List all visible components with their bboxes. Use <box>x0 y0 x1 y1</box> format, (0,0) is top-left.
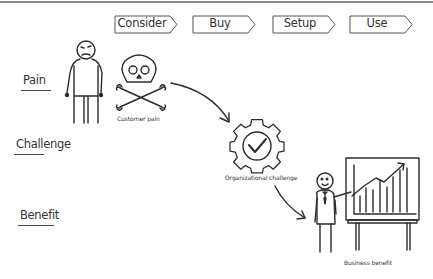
journey-artwork <box>0 0 433 279</box>
easel-chart-icon <box>346 158 419 250</box>
caption-customer-pain: Customer pain <box>117 115 160 122</box>
arrow-icon <box>275 186 305 219</box>
gear-check-icon <box>230 120 284 173</box>
stick-figure-icon <box>66 41 103 123</box>
skull-crossbones-icon <box>116 55 165 110</box>
arrow-icon <box>171 83 229 122</box>
caption-business-benefit: Business benefit <box>344 259 392 266</box>
caption-organizational-challenge: Organizational challenge <box>225 174 297 181</box>
